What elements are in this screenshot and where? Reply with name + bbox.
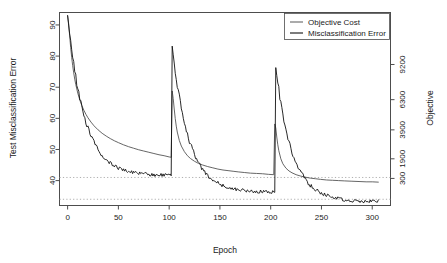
y-tick-label-left: 70: [49, 82, 58, 91]
x-tick-label: 0: [65, 213, 70, 222]
y-tick-label-right: 3900: [399, 120, 408, 138]
y-tick-label-right: 1900: [399, 149, 408, 167]
y-tick-label-left: 80: [49, 51, 58, 60]
x-tick-label: 100: [162, 213, 176, 222]
x-axis-title: Epoch: [213, 245, 237, 255]
x-tick-label: 300: [366, 213, 380, 222]
x-tick-label: 50: [114, 213, 123, 222]
y-tick-label-right: 6300: [399, 90, 408, 108]
y-tick-label-left: 40: [49, 176, 58, 185]
chart-container: 405060708090 3001900390063009200 0501001…: [0, 0, 447, 263]
x-tick-label: 150: [213, 213, 227, 222]
chart-canvas: 405060708090 3001900390063009200 0501001…: [0, 0, 447, 263]
y-tick-label-left: 50: [49, 144, 58, 153]
y-tick-label-right: 9200: [399, 55, 408, 73]
y-axis-right-title: Objective: [425, 90, 435, 126]
y-tick-label-right: 300: [399, 171, 408, 185]
x-tick-label: 200: [264, 213, 278, 222]
chart-legend: Objective Cost Misclassification Error: [285, 14, 390, 40]
y-tick-label-left: 60: [49, 113, 58, 122]
y-tick-label-left: 90: [49, 20, 58, 29]
legend-label-objective-cost: Objective Cost: [308, 18, 361, 27]
y-axis-left-title: Test Misclassification Error: [8, 58, 18, 159]
legend-label-misclassification-error: Misclassification Error: [308, 29, 386, 38]
x-tick-label: 250: [315, 213, 329, 222]
